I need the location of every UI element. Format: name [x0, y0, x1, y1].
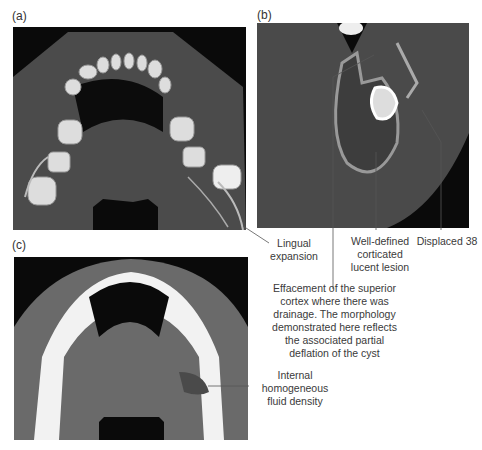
annotation-lingual-expansion: Lingual expansion	[264, 237, 324, 263]
annotation-effacement: Effacement of the superior cortex where …	[262, 282, 407, 360]
annotation-well-defined-lesion: Well-defined corticated lucent lesion	[345, 235, 415, 274]
leader-lines	[0, 0, 482, 450]
annotation-internal-fluid: Internal homogeneous fluid density	[250, 369, 340, 408]
annotation-displaced-38: Displaced 38	[412, 235, 482, 248]
